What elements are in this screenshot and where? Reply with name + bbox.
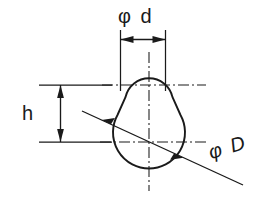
dimension-label-h: h — [22, 103, 33, 123]
dimension-phi-d — [121, 30, 166, 91]
phi-d-arrowhead-right — [153, 36, 166, 43]
dimension-label-phi-d: φ d — [118, 6, 154, 26]
technical-drawing-canvas: φ d h φ D — [0, 0, 261, 204]
phi-d-arrowhead-left — [121, 36, 134, 43]
h-arrowhead-up — [57, 85, 64, 98]
centerline-group — [100, 52, 206, 191]
drawing-vector-layer — [0, 0, 261, 204]
h-arrowhead-down — [57, 129, 64, 142]
dimension-h — [39, 85, 112, 142]
